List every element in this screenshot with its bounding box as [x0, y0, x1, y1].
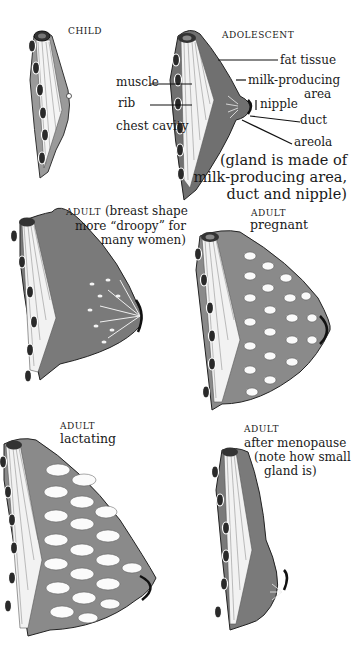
- stage-label-menopause: ADULT: [244, 422, 351, 436]
- menopause-caption-line-2: (note how small: [254, 450, 351, 464]
- menopause-caption-line-1: after menopause: [244, 436, 351, 450]
- menopause-caption: ADULT after menopause (note how small gl…: [244, 422, 351, 478]
- menopause-caption-line-3: gland is): [264, 464, 351, 478]
- menopause-illustration: [0, 0, 356, 649]
